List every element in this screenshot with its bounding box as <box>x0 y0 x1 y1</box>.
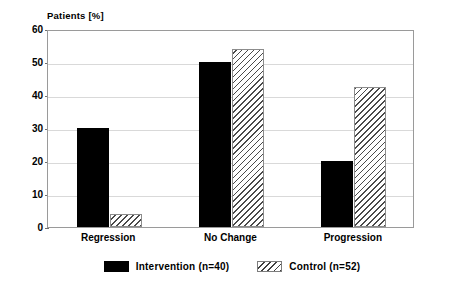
plot-area <box>47 30 414 228</box>
bar <box>199 62 231 227</box>
bar-chart-figure: Patients [%] 0102030405060 RegressionNo … <box>0 0 464 287</box>
bar <box>232 49 264 227</box>
bar <box>77 128 109 227</box>
y-axis-tick-label: 50 <box>17 58 43 68</box>
legend-label: Control (n=52) <box>289 261 360 272</box>
x-axis-tick-label: Regression <box>81 232 135 243</box>
x-axis-tick-label: Progression <box>324 232 382 243</box>
legend-hatched-swatch-icon <box>257 261 282 272</box>
x-axis-tick-label: No Change <box>204 232 257 243</box>
y-axis-tick-label: 20 <box>17 157 43 167</box>
legend-solid-swatch-icon <box>104 261 129 272</box>
y-axis-title: Patients [%] <box>47 10 104 21</box>
y-axis-tick-label: 30 <box>17 124 43 134</box>
legend-entry: Intervention (n=40) <box>104 261 230 272</box>
legend-entry: Control (n=52) <box>257 261 360 272</box>
bar <box>321 161 353 227</box>
y-axis-tick-label: 10 <box>17 190 43 200</box>
legend-label: Intervention (n=40) <box>136 261 230 272</box>
x-axis-tick-labels: RegressionNo ChangeProgression <box>47 232 414 248</box>
y-axis-tick-label: 0 <box>17 223 43 233</box>
y-axis-tick-label: 60 <box>17 25 43 35</box>
bar <box>110 214 142 227</box>
y-axis-tick-label: 40 <box>17 91 43 101</box>
y-axis-tick-mark <box>45 228 49 229</box>
y-axis-tick-labels: 0102030405060 <box>13 30 43 228</box>
bar <box>354 87 386 227</box>
chart-legend: Intervention (n=40)Control (n=52) <box>0 261 464 272</box>
